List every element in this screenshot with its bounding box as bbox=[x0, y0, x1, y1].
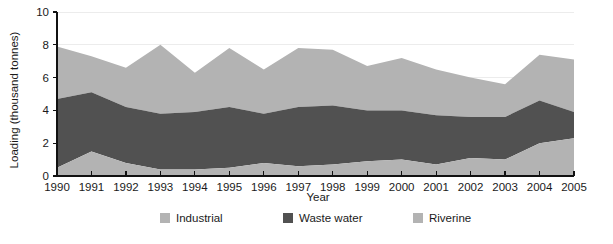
x-tick-label: 1995 bbox=[217, 181, 243, 193]
x-tick-label: 1999 bbox=[354, 181, 380, 193]
y-tick-label: 6 bbox=[43, 72, 49, 84]
x-tick-label: 2000 bbox=[389, 181, 415, 193]
legend-swatch bbox=[413, 213, 423, 223]
y-tick-label: 10 bbox=[36, 6, 49, 18]
y-tick-label: 8 bbox=[43, 39, 49, 51]
legend-label: Riverine bbox=[429, 212, 471, 224]
legend-item-riverine[interactable]: Riverine bbox=[413, 212, 471, 224]
x-tick-label: 1993 bbox=[148, 181, 174, 193]
y-axis-title: Loading (thousand tonnes) bbox=[8, 31, 20, 168]
x-tick-label: 2003 bbox=[492, 181, 518, 193]
chart-legend: IndustrialWaste waterRiverine bbox=[160, 212, 471, 224]
y-axis-tick-labels: 0246810 bbox=[36, 6, 49, 182]
legend-swatch bbox=[160, 213, 170, 223]
area-series-group bbox=[57, 45, 574, 176]
x-tick-label: 1991 bbox=[79, 181, 105, 193]
x-tick-label: 1990 bbox=[44, 181, 70, 193]
x-tick-label: 2002 bbox=[458, 181, 484, 193]
x-tick-label: 1992 bbox=[113, 181, 139, 193]
y-tick-label: 4 bbox=[43, 104, 50, 116]
legend-swatch bbox=[283, 213, 293, 223]
stacked-area-chart: 0246810 19901991199219931994199519961997… bbox=[0, 0, 613, 244]
area-band-riverine bbox=[57, 45, 574, 117]
legend-item-industrial[interactable]: Industrial bbox=[160, 212, 223, 224]
x-tick-label: 1994 bbox=[182, 181, 208, 193]
chart-figure: 0246810 19901991199219931994199519961997… bbox=[0, 0, 613, 244]
legend-label: Industrial bbox=[176, 212, 223, 224]
y-tick-label: 2 bbox=[43, 137, 49, 149]
x-tick-label: 2001 bbox=[423, 181, 449, 193]
x-tick-label: 2005 bbox=[561, 181, 587, 193]
legend-label: Waste water bbox=[299, 212, 363, 224]
x-tick-label: 1996 bbox=[251, 181, 277, 193]
legend-item-waste-water[interactable]: Waste water bbox=[283, 212, 363, 224]
x-tick-label: 2004 bbox=[527, 181, 553, 193]
x-axis-title: Year bbox=[306, 191, 329, 203]
